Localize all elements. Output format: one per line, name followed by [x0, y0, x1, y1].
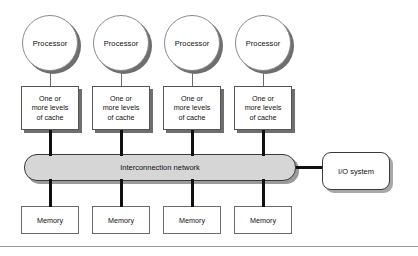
cache-label-line1: One or [181, 94, 203, 104]
processor-node-2[interactable]: Processor [93, 15, 149, 71]
processor-label: Processor [175, 39, 210, 48]
cache-label-line3: of cache [178, 113, 205, 123]
memory-label: Memory [250, 216, 276, 225]
memory-node-3[interactable]: Memory [163, 206, 221, 234]
cache-label-line3: of cache [107, 113, 134, 123]
io-label: I/O system [338, 167, 374, 176]
cache-node-3[interactable]: One or more levels of cache [163, 86, 221, 130]
io-system-node[interactable]: I/O system [322, 152, 390, 190]
network-memory-connector-1 [49, 179, 52, 207]
memory-node-2[interactable]: Memory [92, 206, 150, 234]
cache-label-line1: One or [39, 94, 61, 104]
cache-network-connector-3 [191, 130, 194, 156]
cache-network-connector-2 [120, 130, 123, 156]
cache-label-line3: of cache [249, 113, 276, 123]
network-io-connector [294, 166, 324, 169]
memory-label: Memory [108, 216, 134, 225]
network-memory-connector-2 [120, 179, 123, 207]
processor-node-3[interactable]: Processor [164, 15, 220, 71]
cache-label-line1: One or [110, 94, 132, 104]
memory-node-4[interactable]: Memory [234, 206, 292, 234]
processor-label: Processor [104, 39, 139, 48]
network-memory-connector-3 [191, 179, 194, 207]
cache-network-connector-4 [262, 130, 265, 156]
processor-node-1[interactable]: Processor [22, 15, 78, 71]
processor-node-4[interactable]: Processor [235, 15, 291, 71]
architecture-diagram: Processor One or more levels of cache Me… [0, 0, 418, 256]
cache-label-line1: One or [252, 94, 274, 104]
cache-label-line3: of cache [36, 113, 63, 123]
memory-label: Memory [37, 216, 63, 225]
cache-network-connector-1 [49, 130, 52, 156]
processor-label: Processor [246, 39, 281, 48]
cache-label-line2: more levels [103, 103, 140, 113]
processor-label: Processor [33, 39, 68, 48]
memory-node-1[interactable]: Memory [21, 206, 79, 234]
cache-node-1[interactable]: One or more levels of cache [21, 86, 79, 130]
interconnection-network[interactable]: Interconnection network [24, 154, 296, 181]
memory-label: Memory [179, 216, 205, 225]
network-label: Interconnection network [120, 163, 200, 172]
bottom-divider [0, 246, 418, 247]
cache-label-line2: more levels [174, 103, 211, 113]
cache-node-2[interactable]: One or more levels of cache [92, 86, 150, 130]
cache-node-4[interactable]: One or more levels of cache [234, 86, 292, 130]
network-memory-connector-4 [262, 179, 265, 207]
cache-label-line2: more levels [245, 103, 282, 113]
cache-label-line2: more levels [32, 103, 69, 113]
